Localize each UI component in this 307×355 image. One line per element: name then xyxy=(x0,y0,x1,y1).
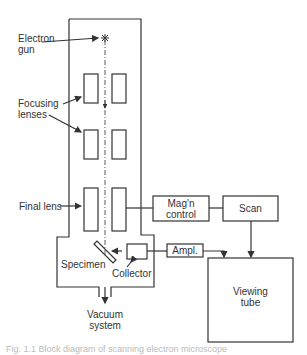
focusing-lens-2-right xyxy=(112,130,126,159)
label-line: tube xyxy=(208,297,293,308)
electron-gun-icon xyxy=(101,34,109,42)
final-lens-right xyxy=(112,188,126,231)
focusing-lens-2-left xyxy=(84,130,98,159)
label-line: Electron xyxy=(18,33,55,44)
focusing-lens-1-left xyxy=(84,74,98,103)
figure-caption: Fig. 1.1 Block diagram of scanning elect… xyxy=(6,344,227,354)
label-magn-control: Mag'n control xyxy=(153,198,209,220)
label-line: Vacuum xyxy=(85,309,125,320)
focusing-lens-1-right xyxy=(112,74,126,103)
label-collector: Collector xyxy=(112,268,151,279)
label-line: control xyxy=(153,209,209,220)
label-scan: Scan xyxy=(223,203,278,214)
label-vacuum-system: Vacuum system xyxy=(85,309,125,331)
final-lens-left xyxy=(84,188,98,231)
label-focusing-lenses: Focusing lenses xyxy=(18,98,59,120)
collector-box xyxy=(127,244,147,259)
label-line: Mag'n xyxy=(153,198,209,209)
label-final-lens: Final lens xyxy=(19,201,62,212)
label-line: Focusing xyxy=(18,98,59,109)
label-line: Viewing xyxy=(208,286,293,297)
label-ampl: Ampl. xyxy=(167,245,203,256)
label-electron-gun: Electron gun xyxy=(18,33,55,55)
label-viewing-tube: Viewing tube xyxy=(208,286,293,308)
label-specimen: Specimen xyxy=(61,259,105,270)
label-line: system xyxy=(85,320,125,331)
label-line: gun xyxy=(18,44,55,55)
label-line: lenses xyxy=(18,109,59,120)
